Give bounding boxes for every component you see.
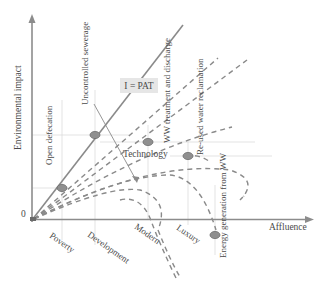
curve-tails bbox=[120, 156, 210, 278]
point-ww-treatment bbox=[143, 138, 153, 145]
stage-luxury: Luxury bbox=[175, 222, 203, 246]
ipat-line bbox=[32, 25, 183, 220]
ww-treatment-label: WW treatment and discharge bbox=[162, 38, 172, 143]
open-defecation-label: Open defecation bbox=[44, 105, 54, 165]
stage-development: Development bbox=[86, 229, 132, 265]
reused-water-label: Re-used water reclamation bbox=[195, 58, 205, 155]
x-axis-label: Affluence bbox=[269, 222, 307, 232]
energy-generation-label: Energy generation from WW bbox=[218, 153, 228, 258]
stage-modern: Modern bbox=[133, 221, 162, 246]
y-axis-arrow-icon bbox=[29, 14, 36, 23]
point-open-defecation bbox=[57, 184, 67, 191]
point-reused-water bbox=[183, 152, 193, 159]
point-uncontrolled-sewerage bbox=[90, 131, 100, 138]
origin-label: 0 bbox=[21, 209, 26, 219]
uncontrolled-sewerage-label: Uncontrolled sewerage bbox=[80, 22, 90, 105]
y-axis-label: Environmental impact bbox=[13, 65, 23, 150]
technology-label: Technology bbox=[123, 149, 168, 159]
ipat-label: I = PAT bbox=[124, 81, 153, 91]
environmental-impact-diagram: I = PAT Technology Environmental impact … bbox=[0, 0, 331, 292]
technology-arrow bbox=[94, 104, 139, 183]
